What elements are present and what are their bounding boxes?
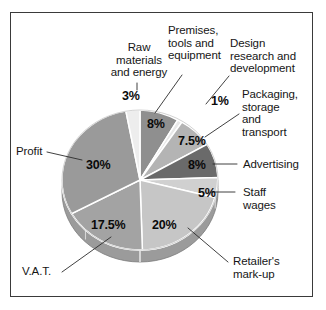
pie-slices — [62, 110, 218, 250]
pie-chart-figure: Raw materials and energy Premises, tools… — [0, 0, 326, 310]
label-packaging: Packaging, storage and transport — [242, 88, 318, 138]
leader-packaging — [205, 114, 239, 137]
label-profit: Profit — [16, 145, 56, 158]
label-design-research: Design research and development — [230, 37, 316, 75]
leader-premises — [155, 75, 182, 113]
value-packaging: 7.5% — [178, 134, 206, 148]
label-premises: Premises, tools and equipment — [168, 24, 230, 62]
label-raw-materials: Raw materials and energy — [105, 41, 173, 79]
value-profit: 30% — [86, 158, 110, 172]
value-advertising: 8% — [188, 158, 206, 172]
value-vat: 17.5% — [91, 218, 125, 232]
label-advertising: Advertising — [243, 158, 319, 171]
value-raw-materials: 3% — [122, 89, 140, 103]
value-premises: 8% — [147, 117, 165, 131]
label-vat: V.A.T. — [22, 265, 66, 278]
value-design-research: 1% — [211, 94, 229, 108]
value-retailer-markup: 20% — [152, 218, 176, 232]
value-staff-wages: 5% — [198, 186, 216, 200]
label-retailer-markup: Retailer's mark-up — [233, 255, 313, 280]
label-staff-wages: Staff wages — [243, 186, 299, 211]
leader-retailer-markup — [188, 228, 228, 262]
